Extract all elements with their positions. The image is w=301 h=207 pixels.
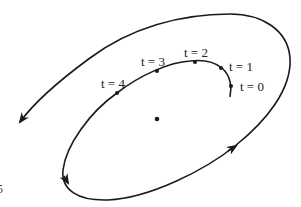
spiral-diagram: t = 0 t = 1 t = 2 t = 3 t = 4 5	[0, 0, 301, 207]
center-point	[155, 117, 160, 122]
trajectory-curve	[20, 14, 290, 200]
marker-t3	[155, 69, 159, 73]
label-t2: t = 2	[184, 45, 208, 60]
marker-t0	[229, 84, 233, 88]
label-t3: t = 3	[141, 54, 165, 69]
label-t4: t = 4	[101, 76, 125, 91]
arrow-right-icon	[228, 146, 236, 151]
label-t1: t = 1	[229, 59, 253, 74]
marker-t2	[193, 60, 197, 64]
label-t0: t = 0	[240, 79, 264, 94]
marker-t4	[115, 91, 119, 95]
marker-t1	[219, 66, 223, 70]
time-markers	[115, 60, 233, 95]
cropped-edge-glyph: 5	[0, 182, 3, 196]
